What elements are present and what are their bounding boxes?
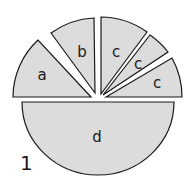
figure-number: 1 xyxy=(20,151,33,175)
svg-text:c: c xyxy=(153,74,161,92)
svg-text:d: d xyxy=(92,128,102,146)
svg-text:c: c xyxy=(112,43,120,61)
svg-text:b: b xyxy=(77,43,87,61)
pie-pieces-diagram: a b c c c d 1 xyxy=(0,0,195,182)
svg-text:a: a xyxy=(37,66,46,84)
svg-text:c: c xyxy=(134,55,142,73)
piece-d: d xyxy=(22,102,174,175)
